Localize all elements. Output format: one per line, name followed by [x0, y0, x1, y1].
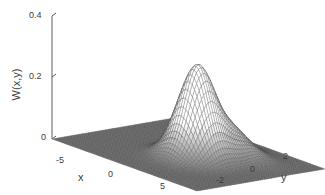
x-tick-label--5: -5 — [56, 156, 64, 165]
y-tick-label-0: 0 — [250, 165, 255, 174]
surface-plot-figure: W(x,y) 0.4 0.2 0 -5 0 5 x -2 0 2 y — [0, 0, 325, 195]
y-tick-label--2: -2 — [216, 176, 224, 185]
axis-lines — [52, 13, 56, 139]
z-tick-label-0.4: 0.4 — [29, 11, 42, 20]
surface-plot-canvas — [0, 0, 325, 195]
x-tick-label-5: 5 — [160, 182, 165, 191]
z-axis-title: W(x,y) — [11, 58, 22, 112]
z-tick-label-0: 0 — [41, 133, 46, 142]
z-axis-title-wrap: W(x,y) — [2, 58, 28, 118]
z-tick-label-0.2: 0.2 — [29, 72, 42, 81]
x-tick-label-0: 0 — [108, 170, 113, 179]
y-axis-title: y — [281, 172, 287, 183]
x-axis-title: x — [78, 172, 84, 183]
z-tick-0.4 — [52, 13, 56, 16]
z-tick-0.2 — [52, 74, 56, 77]
y-tick-label-2: 2 — [283, 152, 288, 161]
